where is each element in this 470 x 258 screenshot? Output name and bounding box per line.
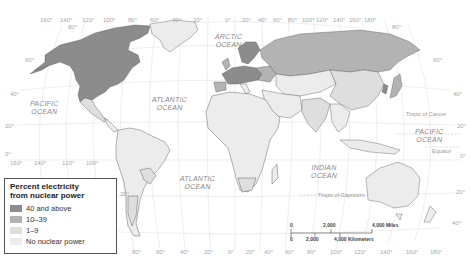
region-madagascar <box>272 164 278 184</box>
longitude-label: 120° <box>354 249 366 255</box>
asia <box>260 30 420 154</box>
longitude-label: 100° <box>302 17 314 23</box>
ocean-label-pacific-east: PACIFIC OCEAN <box>415 128 444 144</box>
ocean-label-atlantic-north: ATLANTIC OCEAN <box>152 96 187 112</box>
longitude-label: 160° <box>349 17 361 23</box>
longitude-label: 0° <box>225 17 231 23</box>
legend-item-10-39: 10–39 <box>10 214 111 224</box>
region-japan <box>390 74 402 98</box>
latitude-label: 20° <box>5 123 14 129</box>
region-india <box>302 98 330 132</box>
latitude-label: 60° <box>25 57 34 63</box>
longitude-label: 100° <box>86 160 98 166</box>
latitude-label: 20° <box>120 191 129 197</box>
legend-item-1-9: 1–9 <box>10 225 111 235</box>
longitude-label: 140° <box>34 160 46 166</box>
longitude-label: 60° <box>150 17 159 23</box>
longitude-label: 120° <box>62 160 74 166</box>
oceania <box>366 162 436 222</box>
longitude-label: 120° <box>82 17 94 23</box>
region-russia <box>260 30 420 76</box>
longitude-label: 180° <box>430 249 442 255</box>
legend-swatch <box>10 227 22 234</box>
latitude-label: 40° <box>453 91 462 97</box>
legend-swatch <box>10 205 22 212</box>
longitude-label: 140° <box>380 249 392 255</box>
region-canada-usa <box>35 25 150 102</box>
region-iberia <box>214 82 226 92</box>
south-america <box>116 128 170 236</box>
latitude-label: 20° <box>456 189 465 195</box>
latitude-label: 0° <box>460 153 466 159</box>
ocean-label-arctic: ARCTIC OCEAN <box>215 33 242 49</box>
region-france-germany <box>222 66 262 84</box>
region-central-america <box>104 118 118 132</box>
longitude-label: 160° <box>10 160 22 166</box>
longitude-label: 0° <box>228 249 234 255</box>
tropic-of-cancer-label: Tropic of Cancer <box>406 111 446 117</box>
latitude-label: 20° <box>457 123 466 129</box>
ocean-label-atlantic-south: ATLANTIC OCEAN <box>180 175 215 191</box>
longitude-label: 100° <box>103 17 115 23</box>
longitude-label: 80° <box>307 249 316 255</box>
legend: Percent electricity from nuclear power 4… <box>4 178 117 254</box>
legend-item-no-nuclear: No nuclear power <box>10 236 111 246</box>
legend-swatch <box>10 216 22 223</box>
tropic-of-capricorn-label: Tropic of Capricorn <box>318 192 365 198</box>
ocean-label-indian: INDIAN OCEAN <box>311 164 337 180</box>
longitude-label: 60° <box>273 17 282 23</box>
latitude-label: 0° <box>5 151 11 157</box>
region-tasmania <box>396 214 402 220</box>
region-italy <box>240 84 250 94</box>
longitude-label: 160° <box>40 17 52 23</box>
scale-bar: 0 2,000 4,000 Miles 0 2,000 4,000 Kilome… <box>290 222 405 244</box>
longitude-label: 120° <box>316 17 328 23</box>
region-new-zealand <box>424 206 436 222</box>
longitude-label: 180° <box>364 17 376 23</box>
longitude-label: 20° <box>193 17 202 23</box>
latitude-label: 40° <box>10 91 19 97</box>
africa <box>206 92 280 192</box>
equator-label: Equator <box>432 148 451 154</box>
longitude-label: 100° <box>330 249 342 255</box>
scale-km-start: 0 <box>290 236 293 242</box>
longitude-label: 40° <box>180 249 189 255</box>
latitude-label: 40° <box>452 220 461 226</box>
region-uk <box>222 58 230 70</box>
longitude-label: 40° <box>172 17 181 23</box>
longitude-label: 140° <box>333 17 345 23</box>
longitude-label: 20° <box>204 249 213 255</box>
longitude-label: 80° <box>128 17 137 23</box>
latitude-label: 80° <box>68 24 77 30</box>
region-australia <box>366 162 420 208</box>
longitude-label: 20° <box>246 249 255 255</box>
longitude-label: 40° <box>264 249 273 255</box>
legend-title: Percent electricity from nuclear power <box>10 182 111 200</box>
region-se-asia <box>330 104 350 132</box>
longitude-label: 160° <box>406 249 418 255</box>
longitude-label: 80° <box>132 249 141 255</box>
scale-km-end: 4,000 Kilometers <box>334 236 374 242</box>
scale-km-mid: 2,000 <box>306 236 319 242</box>
ocean-label-pacific-west: PACIFIC OCEAN <box>30 100 59 116</box>
longitude-label: 60° <box>156 249 165 255</box>
longitude-label: 20° <box>242 17 251 23</box>
legend-swatch <box>10 238 22 245</box>
longitude-label: 140° <box>60 17 72 23</box>
legend-item-40-and-above: 40 and above <box>10 203 111 213</box>
latitude-label: 60° <box>433 57 442 63</box>
longitude-label: 40° <box>258 17 267 23</box>
longitude-label: 60° <box>285 249 294 255</box>
latitude-label: 80° <box>392 24 401 30</box>
longitude-label: 80° <box>288 17 297 23</box>
